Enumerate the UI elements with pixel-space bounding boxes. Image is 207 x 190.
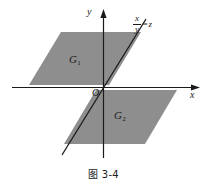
origin-label: O <box>92 88 99 98</box>
figure-graphic <box>0 0 207 190</box>
region-g1-letter: G <box>69 53 77 65</box>
y-axis-label: y <box>87 7 91 17</box>
region-g2-subscript: 2 <box>122 115 126 123</box>
y-axis-arrowhead <box>100 9 106 18</box>
region-g2-letter: G <box>114 109 122 121</box>
region-g1-shape <box>29 32 141 85</box>
x-axis-label: x <box>190 90 194 100</box>
equals-sign: = <box>143 19 148 29</box>
region-g1-subscript: 1 <box>77 59 81 67</box>
region-g2-label: G2 <box>114 110 125 121</box>
line-equation-label: x y = z <box>133 14 152 34</box>
figure-container: y x O G1 G2 x y = z 图 3-4 <box>0 0 207 190</box>
figure-caption: 图 3-4 <box>0 166 207 181</box>
equation-fraction: x y <box>133 14 141 34</box>
region-g1-label: G1 <box>69 54 80 65</box>
fraction-denominator: y <box>134 25 140 35</box>
fraction-numerator: x <box>134 14 140 24</box>
equation-right-side: z <box>149 19 153 29</box>
